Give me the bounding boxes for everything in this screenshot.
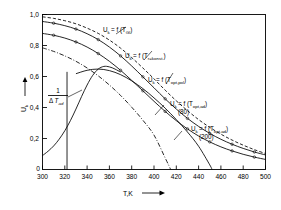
- x-axis-label: T,K: [123, 190, 133, 197]
- series-line-t-opt-pol: [43, 33, 266, 159]
- y-tick-label: 0,8: [30, 42, 39, 49]
- x-tick-label: 500: [260, 173, 271, 180]
- annotation-t-opt-ad-200-value: (200): [199, 133, 214, 141]
- series-line-t-gl: [43, 17, 266, 154]
- plot-frame: [43, 15, 266, 170]
- annotation-t-opt-pol: Uk= f (Topt,pol): [148, 76, 186, 85]
- x-tick-label: 460: [215, 173, 226, 180]
- annotation-t-gl: Uk= f (TGl): [103, 26, 132, 35]
- y-tick-label: 0,6: [30, 73, 39, 80]
- annotation-t-opt-ad-80-value: (80): [178, 108, 189, 116]
- fraction-numerator: 1: [56, 87, 60, 94]
- y-tick-label: 1,0: [30, 11, 39, 18]
- annotation-inverse-delta-tad: 1 ΔTad: [48, 87, 68, 106]
- annotation-t-r-konst-text: Uk= f (Tr=konst.): [125, 52, 166, 61]
- annotation-t-r-konst: Uk= f (Tr=konst.): [125, 52, 166, 61]
- annotation-t-opt-ad-80: Uk= f (Topt,ad) (80): [170, 100, 207, 116]
- y-tick-label: 0,2: [30, 135, 39, 142]
- x-tick-label: 320: [59, 173, 70, 180]
- x-axis-ticks: 300 320 340 360 380 400 420 440 460 480 …: [37, 166, 271, 181]
- x-axis-label-group: T,K: [123, 190, 165, 197]
- y-axis-ticks: 1,0 0,8 0,6 0,4 0,2 0: [30, 11, 47, 172]
- series-markers-t-opt-pol: [52, 34, 255, 158]
- y-axis-label-group: Uk: [20, 77, 29, 112]
- series-line-inverse-delta-tad: [43, 66, 121, 155]
- x-tick-label: 340: [82, 173, 93, 180]
- x-tick-label: 440: [193, 173, 204, 180]
- x-tick-label: 480: [238, 173, 249, 180]
- annotation-t-gl-text: Uk= f (TGl): [103, 26, 132, 35]
- chart-canvas: 1,0 0,8 0,6 0,4 0,2 0 300 320 340 360 38…: [0, 0, 281, 210]
- chart-figure: 1,0 0,8 0,6 0,4 0,2 0 300 320 340 360 38…: [0, 0, 281, 210]
- y-tick-label: 0,4: [30, 104, 39, 111]
- x-tick-label: 380: [126, 173, 137, 180]
- fraction-denominator: ΔTad: [49, 97, 64, 106]
- annotation-t-opt-pol-text: Uk= f (Topt,pol): [148, 76, 186, 85]
- y-tick-label: 0: [36, 165, 40, 172]
- leader-lines: [68, 27, 182, 140]
- x-tick-label: 360: [104, 173, 115, 180]
- series-line-t-opt-ad-200: [76, 69, 212, 169]
- x-tick-label: 420: [171, 173, 182, 180]
- x-tick-label: 300: [37, 173, 48, 180]
- y-axis-label: Uk: [20, 104, 29, 112]
- annotation-t-opt-ad-200: Uk= f (Topt,ad) (200): [191, 125, 228, 141]
- x-tick-label: 400: [148, 173, 159, 180]
